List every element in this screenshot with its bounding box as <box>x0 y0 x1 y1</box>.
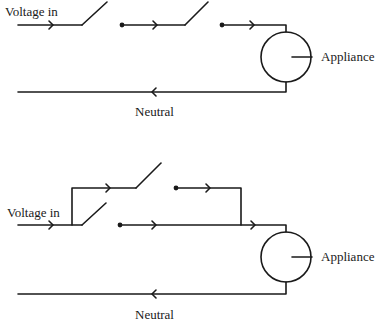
voltage-in-label: Voltage in <box>5 5 58 18</box>
switch-a-open <box>136 163 161 188</box>
neutral-wire <box>18 82 286 92</box>
switch-2-open <box>185 2 208 25</box>
appliance-label: Appliance <box>321 50 374 63</box>
switch-b-open <box>82 203 106 225</box>
load-feed-wire <box>120 225 286 232</box>
neutral-label: Neutral <box>135 105 174 118</box>
neutral-wire <box>18 282 286 294</box>
series-circuit <box>18 2 312 96</box>
switch-1-open <box>82 2 107 25</box>
neutral-label: Neutral <box>135 308 174 321</box>
upper-branch-wire <box>72 188 136 225</box>
parallel-circuit <box>18 163 312 298</box>
voltage-in-label: Voltage in <box>7 206 60 219</box>
appliance-label: Appliance <box>321 250 374 263</box>
upper-return-wire <box>176 188 241 225</box>
